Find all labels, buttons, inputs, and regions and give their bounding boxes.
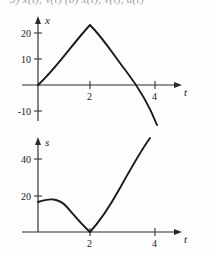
y-tick-label-20: 20 (21, 28, 31, 39)
x-axis-label: t (184, 86, 188, 98)
y-axis-arrowhead (35, 16, 41, 24)
chart-x-vs-t-svg: x t 20 10 -10 2 4 (0, 8, 210, 125)
x-axis-arrowhead (174, 229, 182, 235)
chart-s-vs-t-svg: s t 40 20 2 4 (0, 126, 210, 254)
y-axis-label: s (45, 136, 49, 148)
x-tick-label-4: 4 (152, 91, 157, 102)
x-tick-label-2: 2 (87, 91, 92, 102)
top-text-fragment: 3) x(t), v(t) (b) x(t), v(t), a(t) (10, 0, 144, 5)
y-tick-label-neg10: -10 (18, 106, 31, 117)
y-tick-label-10: 10 (21, 54, 31, 65)
chart-x-vs-t: x t 20 10 -10 2 4 (0, 8, 210, 125)
y-axis-arrowhead (35, 137, 41, 145)
curve-s-of-t (38, 138, 150, 232)
curve-x-of-t (38, 25, 157, 125)
y-tick-label-20: 20 (21, 191, 31, 202)
x-tick-label-4: 4 (152, 238, 157, 249)
x-axis-label: t (184, 233, 188, 245)
y-tick-label-40: 40 (21, 154, 31, 165)
top-text-fragment-strip: 3) x(t), v(t) (b) x(t), v(t), a(t) (0, 0, 210, 8)
x-tick-label-2: 2 (87, 238, 92, 249)
figure-root: 3) x(t), v(t) (b) x(t), v(t), a(t) x t 2… (0, 0, 210, 254)
y-axis-label: x (44, 14, 50, 26)
chart-s-vs-t: s t 40 20 2 4 (0, 126, 210, 254)
x-axis-arrowhead (174, 82, 182, 88)
